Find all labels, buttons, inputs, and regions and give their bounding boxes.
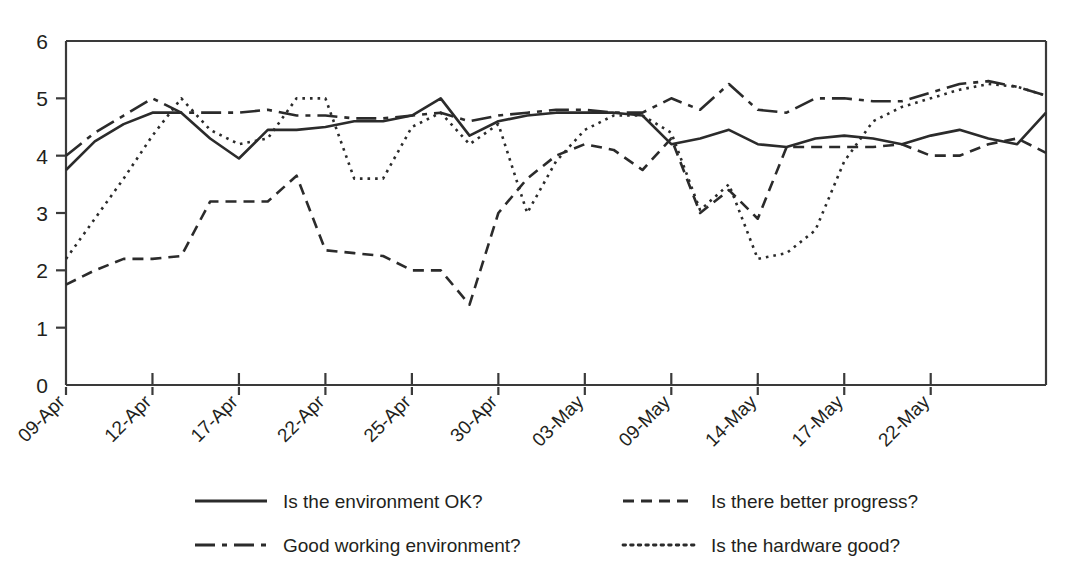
legend-label-3: Good working environment? (283, 535, 521, 556)
legend-label-2: Is there better progress? (711, 491, 918, 512)
y-axis-tick-label: 1 (36, 317, 48, 340)
legend-label-4: Is the hardware good? (711, 535, 900, 556)
y-axis-tick-label: 2 (36, 259, 48, 282)
legend-label-1: Is the environment OK? (283, 491, 483, 512)
line-chart: 0123456 09-Apr12-Apr17-Apr22-Apr25-Apr30… (0, 0, 1071, 577)
y-axis-tick-label: 3 (36, 202, 48, 225)
y-axis-tick-label: 6 (36, 30, 48, 53)
chart-canvas: 0123456 09-Apr12-Apr17-Apr22-Apr25-Apr30… (0, 0, 1071, 577)
y-axis-tick-label: 4 (36, 145, 48, 168)
y-axis-tick-label: 0 (36, 374, 48, 397)
y-axis-tick-label: 5 (36, 87, 48, 110)
